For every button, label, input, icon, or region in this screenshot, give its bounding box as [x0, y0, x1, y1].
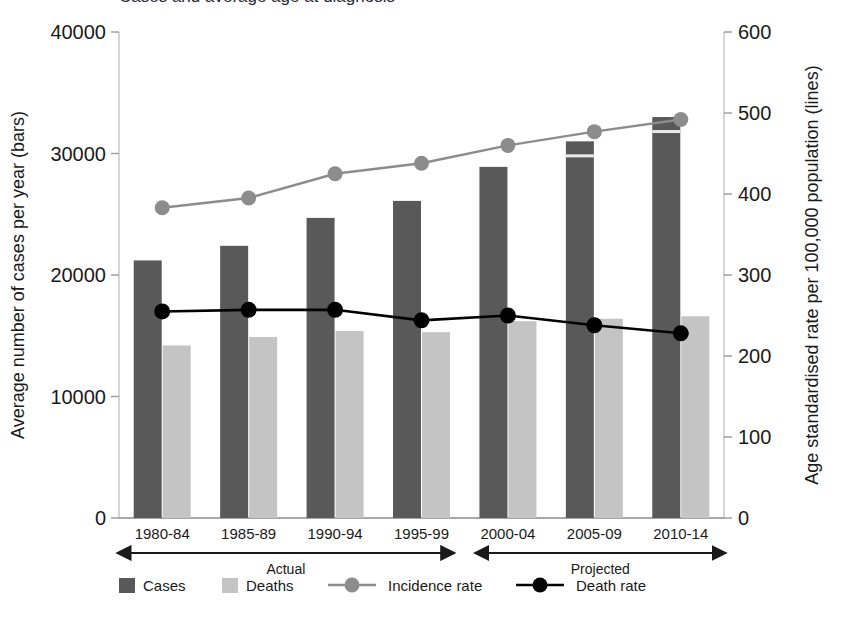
left-tick-label: 30000: [50, 143, 106, 165]
incidence-rate-line: [155, 112, 689, 215]
category-label: 1995-99: [394, 525, 449, 542]
bar-deaths: [422, 332, 450, 518]
bar-cases: [393, 201, 421, 518]
right-axis-ticks: 0100200300400500600: [724, 21, 771, 529]
incidence-rate-line-marker: [241, 191, 256, 206]
legend-item[interactable]: Death rate: [516, 577, 646, 594]
chart-title-clipped: Cases and average age at diagnosis: [119, 0, 395, 6]
legend-label: Death rate: [576, 577, 646, 594]
phase-label: Actual: [266, 561, 305, 577]
bar-deaths: [163, 345, 191, 518]
legend-dot-icon: [533, 578, 548, 593]
legend-label: Incidence rate: [388, 577, 482, 594]
legend-item[interactable]: Incidence rate: [328, 577, 482, 594]
category-label: 1990-94: [308, 525, 363, 542]
right-tick-label: 300: [738, 264, 771, 286]
category-label: 2000-04: [480, 525, 535, 542]
bar-cases: [479, 167, 507, 518]
category-label: 1985-89: [221, 525, 276, 542]
death-rate-line-marker: [327, 302, 343, 318]
incidence-rate-line-marker: [414, 156, 429, 171]
right-tick-label: 100: [738, 426, 771, 448]
combo-chart-canvas: Cases and average age at diagnosis010000…: [0, 0, 843, 620]
category-label: 2010-14: [653, 525, 708, 542]
category-label: 2005-09: [567, 525, 622, 542]
left-tick-label: 40000: [50, 21, 106, 43]
bar-cases: [652, 117, 680, 518]
right-tick-label: 500: [738, 102, 771, 124]
incidence-rate-line-marker: [673, 112, 688, 127]
right-tick-label: 400: [738, 183, 771, 205]
phase-annotations: ActualProjected: [118, 553, 725, 577]
death-rate-line-marker: [154, 303, 170, 319]
incidence-rate-line-marker: [328, 166, 343, 181]
legend-dot-icon: [345, 578, 360, 593]
death-rate-line-marker: [673, 325, 689, 341]
category-label: 1980-84: [135, 525, 190, 542]
bar-cases: [134, 260, 162, 518]
chart-figure: Cases and average age at diagnosis010000…: [0, 0, 843, 620]
death-rate-line-marker: [414, 312, 430, 328]
death-rate-line-marker: [500, 308, 516, 324]
incidence-rate-line-marker: [155, 200, 170, 215]
right-tick-label: 0: [738, 507, 749, 529]
category-labels: 1980-841985-891990-941995-992000-042005-…: [135, 525, 709, 542]
death-rate-line-marker: [586, 317, 602, 333]
legend-label: Cases: [143, 577, 186, 594]
incidence-rate-line-marker: [587, 124, 602, 139]
left-tick-label: 0: [95, 507, 106, 529]
bar-deaths: [336, 331, 364, 518]
legend-label: Deaths: [246, 577, 294, 594]
right-axis-title: Age standardised rate per 100,000 popula…: [802, 65, 822, 484]
legend-swatch-icon: [222, 578, 238, 593]
bar-cases: [307, 218, 335, 518]
left-axis-ticks: 010000200003000040000: [50, 21, 119, 529]
right-tick-label: 600: [738, 21, 771, 43]
bar-deaths: [508, 321, 536, 518]
left-tick-label: 20000: [50, 264, 106, 286]
legend-item[interactable]: Deaths: [222, 577, 294, 594]
right-tick-label: 200: [738, 345, 771, 367]
death-rate-line-marker: [241, 302, 257, 318]
bar-deaths: [681, 316, 709, 518]
chart-legend: CasesDeathsIncidence rateDeath rate: [119, 577, 646, 594]
incidence-rate-line-marker: [500, 138, 515, 153]
legend-swatch-icon: [119, 578, 135, 593]
bar-cases: [220, 246, 248, 518]
legend-item[interactable]: Cases: [119, 577, 186, 594]
bar-deaths: [595, 319, 623, 518]
left-tick-label: 10000: [50, 386, 106, 408]
bar-deaths: [249, 337, 277, 518]
left-axis-title: Average number of cases per year (bars): [8, 111, 28, 439]
phase-label: Projected: [571, 561, 630, 577]
